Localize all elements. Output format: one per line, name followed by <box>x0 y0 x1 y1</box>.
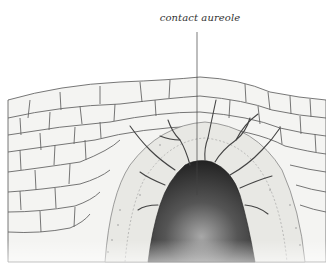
label-contact-aureole: contact aureole <box>150 12 250 23</box>
diagram-canvas: contact aureole <box>0 0 326 280</box>
intrusion-illustration <box>0 0 326 280</box>
